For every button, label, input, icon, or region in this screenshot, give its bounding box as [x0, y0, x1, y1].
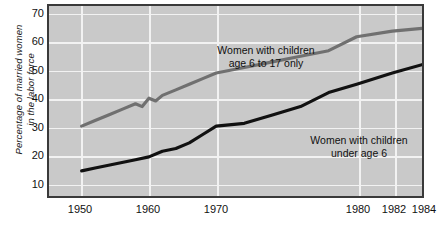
x-tick-label: 1980 [346, 203, 370, 215]
annotation-older-children: Women with children age 6 to 17 only [201, 44, 331, 70]
x-tick-label: 1970 [204, 203, 228, 215]
y-tick-label: 10 [18, 178, 44, 190]
y-tick-label: 60 [18, 35, 44, 47]
x-tick-label: 1960 [136, 203, 160, 215]
x-tick-label: 1982 [382, 203, 406, 215]
y-axis-tick-labels: 70605040302010 [18, 0, 44, 225]
x-axis-tick-labels: 195019601970198019821984 [0, 203, 438, 223]
chart-container: Percentage of married women in the labor… [0, 0, 438, 225]
series-lines [49, 6, 422, 196]
annotation-younger-children: Women with children under age 6 [296, 134, 422, 160]
y-tick-label: 30 [18, 121, 44, 133]
x-tick-label: 1950 [68, 203, 92, 215]
x-tick-label: 1984 [412, 203, 436, 215]
y-tick-label: 70 [18, 7, 44, 19]
y-tick-label: 50 [18, 64, 44, 76]
y-tick-label: 20 [18, 149, 44, 161]
y-tick-label: 40 [18, 92, 44, 104]
plot-area: Women with children age 6 to 17 only Wom… [47, 4, 424, 198]
